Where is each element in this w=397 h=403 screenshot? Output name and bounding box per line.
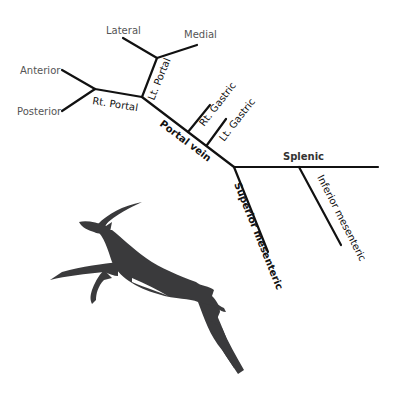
medial-branch bbox=[157, 45, 197, 58]
label-anterior: Anterior bbox=[20, 65, 61, 76]
label-rt-portal: Rt. Portal bbox=[92, 95, 139, 113]
portal-vein-diagram: Lateral Medial Anterior Posterior Rt. Po… bbox=[0, 0, 397, 403]
label-posterior: Posterior bbox=[17, 106, 62, 117]
label-splenic: Splenic bbox=[283, 151, 324, 162]
anterior-branch bbox=[62, 70, 95, 89]
label-superior-mesenteric: Superior mesenteric bbox=[232, 181, 285, 292]
label-lateral: Lateral bbox=[106, 25, 141, 36]
lateral-branch bbox=[123, 38, 157, 58]
label-medial: Medial bbox=[184, 29, 217, 40]
leaping-antelope-silhouette bbox=[50, 202, 244, 374]
posterior-branch bbox=[62, 89, 95, 111]
label-inferior-mesenteric: Inferior mesenteric bbox=[315, 173, 368, 263]
